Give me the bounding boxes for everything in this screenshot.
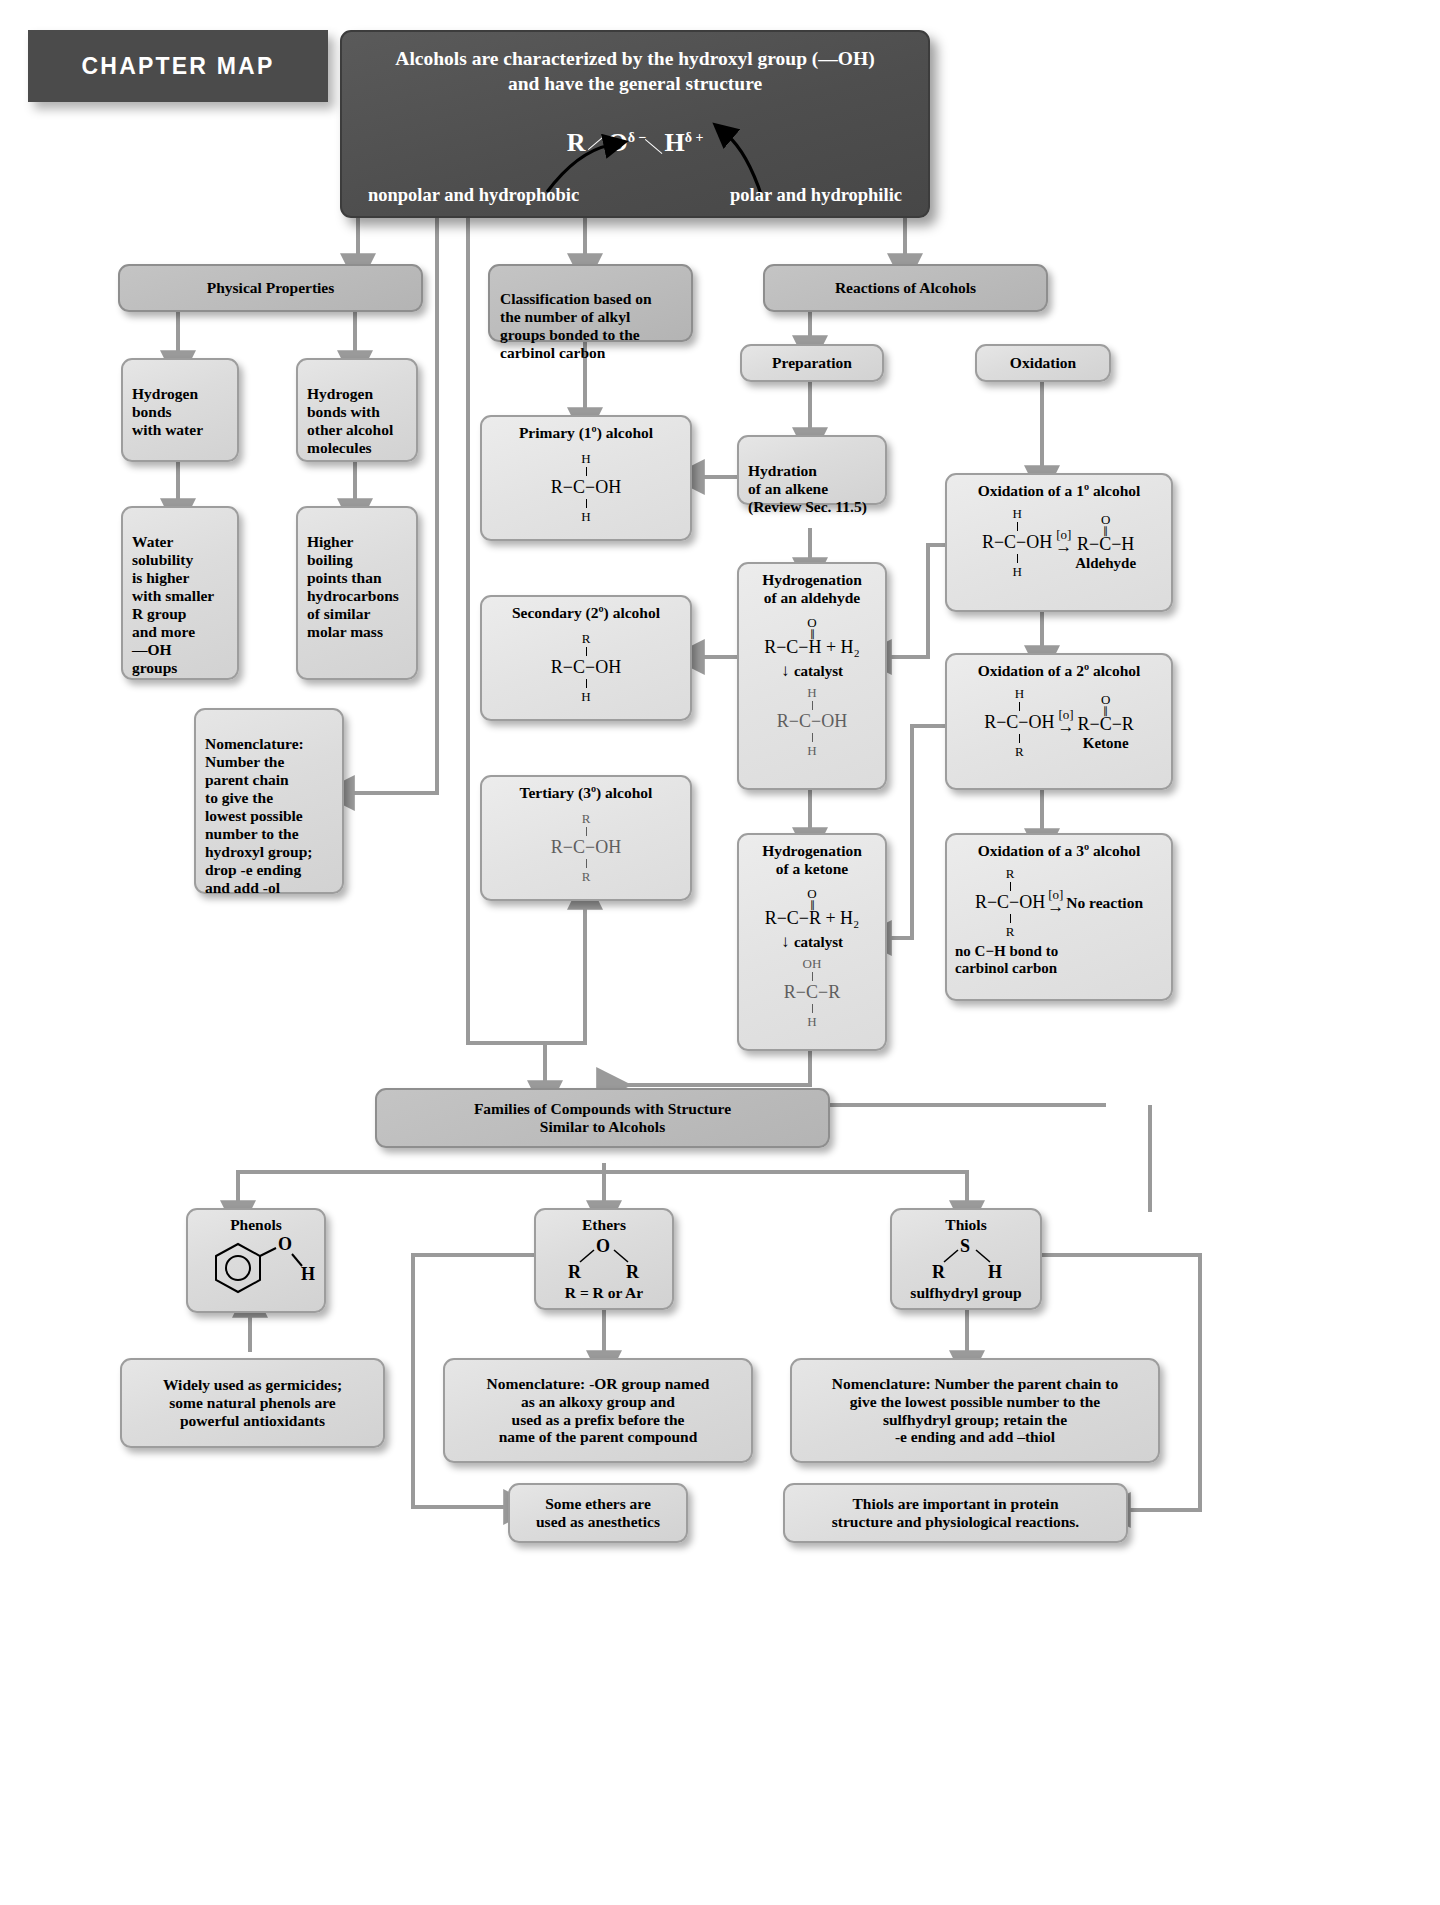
oxidation-primary-structure: H R−C−OH H [o] → O ∥ R−C−H Aldehyde — [955, 506, 1163, 579]
ox3-note: no C−H bond to carbinol carbon — [955, 943, 1163, 978]
box-families-header[interactable]: Families of Compounds with Structure Sim… — [375, 1088, 830, 1148]
ox2-product-name: Ketone — [1077, 735, 1133, 752]
hydration-alkene-label: Hydration of an alkene (Review Sec. 11.5… — [748, 462, 867, 515]
aldehyde-product-bottom: H — [745, 743, 879, 758]
oxidation-primary-title: Oxidation of a 1º alcohol — [955, 482, 1163, 500]
phenols-uses-label: Widely used as germicides; some natural … — [163, 1376, 342, 1430]
box-hydrogenation-aldehyde[interactable]: Hydrogenation of an aldehyde O ∥ R−C−H +… — [737, 562, 887, 790]
phenol-structure: O H — [194, 1234, 322, 1304]
tertiary-right-group: OH — [595, 837, 621, 857]
oxidation-tertiary-title: Oxidation of a 3º alcohol — [955, 842, 1163, 860]
box-oxidation-secondary[interactable]: Oxidation of a 2º alcohol H R−C−OH R [o]… — [945, 653, 1173, 790]
box-water-solubility[interactable]: Water solubility is higher with smaller … — [121, 506, 239, 680]
box-boiling-points[interactable]: Higher boiling points than hydrocarbons … — [296, 506, 418, 680]
box-oxidation[interactable]: Oxidation — [975, 344, 1111, 382]
secondary-alcohol-structure: R R−C−OH H — [491, 631, 681, 704]
svg-text:R: R — [568, 1262, 582, 1282]
chapter-map-canvas: CHAPTER MAP Alcohols are characterized b… — [0, 0, 1440, 1905]
families-header-label: Families of Compounds with Structure Sim… — [474, 1100, 731, 1136]
svg-text:S: S — [960, 1236, 970, 1256]
tertiary-top-atom: R — [491, 811, 681, 826]
ox2-reactant: R−C−OH — [984, 712, 1054, 733]
svg-text:H: H — [988, 1262, 1002, 1282]
branch-classification[interactable]: Classification based on the number of al… — [488, 264, 693, 342]
ether-structure: O R R — [544, 1236, 664, 1284]
ox1-sub-bottom: H — [982, 564, 1052, 579]
box-preparation[interactable]: Preparation — [740, 344, 884, 382]
box-thiols[interactable]: Thiols S R H sulfhydryl group — [890, 1208, 1042, 1310]
water-solubility-label: Water solubility is higher with smaller … — [132, 533, 214, 676]
ox1-sub-top: H — [982, 506, 1052, 521]
hydrogenation-aldehyde-title: Hydrogenation of an aldehyde — [745, 571, 879, 607]
branch-physical-properties[interactable]: Physical Properties — [118, 264, 423, 312]
secondary-right-group: OH — [595, 657, 621, 677]
thiols-note: sulfhydryl group — [898, 1284, 1034, 1302]
ketone-product: R−C−R — [745, 982, 879, 1003]
thiols-protein-label: Thiols are important in protein structur… — [832, 1495, 1079, 1531]
ethers-anesthetics-label: Some ethers are used as anesthetics — [536, 1495, 660, 1531]
primary-bottom-atom: H — [491, 509, 681, 524]
oxidation-label: Oxidation — [1010, 354, 1076, 372]
ketone-catalyst: catalyst — [794, 934, 843, 950]
tertiary-center-atom: C — [573, 837, 585, 857]
chapter-map-banner: CHAPTER MAP — [28, 30, 328, 102]
box-phenols-uses[interactable]: Widely used as germicides; some natural … — [120, 1358, 385, 1448]
ethers-nomenclature-label: Nomenclature: -OR group named as an alko… — [487, 1375, 710, 1447]
box-ethers-nomenclature[interactable]: Nomenclature: -OR group named as an alko… — [443, 1358, 753, 1463]
thiols-title: Thiols — [898, 1216, 1034, 1234]
box-hydrogen-bonds-water[interactable]: Hydrogen bonds with water — [121, 358, 239, 462]
ox3-sub-top: R — [975, 866, 1045, 881]
box-primary-alcohol[interactable]: Primary (1º) alcohol H R−C−OH H — [480, 415, 692, 541]
svg-text:R: R — [626, 1262, 640, 1282]
box-phenols[interactable]: Phenols O H — [186, 1208, 326, 1313]
box-secondary-alcohol[interactable]: Secondary (2º) alcohol R R−C−OH H — [480, 595, 692, 721]
primary-right-group: OH — [595, 477, 621, 497]
secondary-center-atom: C — [573, 657, 585, 677]
svg-text:R: R — [932, 1262, 946, 1282]
header-box: Alcohols are characterized by the hydrox… — [340, 30, 930, 218]
header-left-note: nonpolar and hydrophobic — [368, 185, 579, 206]
branch-reactions-label: Reactions of Alcohols — [835, 279, 976, 297]
box-hydration-alkene[interactable]: Hydration of an alkene (Review Sec. 11.5… — [737, 435, 887, 505]
svg-text:H: H — [301, 1264, 315, 1284]
primary-top-atom: H — [491, 451, 681, 466]
oxidation-tertiary-structure: R R−C−OH R [o] → No reaction — [955, 866, 1163, 939]
hydrogenation-ketone-structure: O ∥ R−C−R + H₂ ↓ catalyst OH R−C−R H — [745, 886, 879, 1029]
boiling-points-label: Higher boiling points than hydrocarbons … — [307, 533, 399, 640]
box-thiols-nomenclature[interactable]: Nomenclature: Number the parent chain to… — [790, 1358, 1160, 1463]
box-hydrogenation-ketone[interactable]: Hydrogenation of a ketone O ∥ R−C−R + H₂… — [737, 833, 887, 1051]
tertiary-left-atom: R — [551, 837, 563, 857]
box-hydrogen-bonds-alcohol[interactable]: Hydrogen bonds with other alcohol molecu… — [296, 358, 418, 462]
oxidation-secondary-title: Oxidation of a 2º alcohol — [955, 662, 1163, 680]
box-oxidation-primary[interactable]: Oxidation of a 1º alcohol H R−C−OH H [o]… — [945, 473, 1173, 612]
primary-alcohol-title: Primary (1º) alcohol — [491, 424, 681, 442]
aldehyde-reactant: R−C−H + H₂ — [745, 637, 879, 658]
box-oxidation-tertiary[interactable]: Oxidation of a 3º alcohol R R−C−OH R [o]… — [945, 833, 1173, 1001]
branch-reactions[interactable]: Reactions of Alcohols — [763, 264, 1048, 312]
tertiary-alcohol-title: Tertiary (3º) alcohol — [491, 784, 681, 802]
secondary-top-atom: R — [491, 631, 681, 646]
aldehyde-product-top: H — [745, 685, 879, 700]
box-ethers[interactable]: Ethers O R R R = R or Ar — [534, 1208, 674, 1310]
aldehyde-catalyst: catalyst — [794, 663, 843, 679]
svg-text:O: O — [278, 1234, 292, 1254]
hydrogen-bonds-water-label: Hydrogen bonds with water — [132, 385, 203, 438]
tertiary-alcohol-structure: R R−C−OH R — [491, 811, 681, 884]
thiol-structure: S R H — [906, 1236, 1026, 1284]
thiols-nomenclature-label: Nomenclature: Number the parent chain to… — [832, 1375, 1118, 1447]
box-ethers-anesthetics[interactable]: Some ethers are used as anesthetics — [508, 1483, 688, 1543]
primary-alcohol-structure: H R−C−OH H — [491, 451, 681, 524]
hydrogenation-ketone-title: Hydrogenation of a ketone — [745, 842, 879, 878]
ox2-sub-bottom: R — [984, 744, 1054, 759]
ox2-product: R−C−R — [1077, 714, 1133, 735]
box-alcohol-nomenclature[interactable]: Nomenclature: Number the parent chain to… — [194, 708, 344, 894]
box-tertiary-alcohol[interactable]: Tertiary (3º) alcohol R R−C−OH R — [480, 775, 692, 901]
branch-physical-properties-label: Physical Properties — [207, 279, 335, 297]
ketone-reactant: R−C−R + H₂ — [745, 908, 879, 929]
svg-text:O: O — [596, 1236, 610, 1256]
ox3-sub-bottom: R — [975, 924, 1045, 939]
alcohol-nomenclature-label: Nomenclature: Number the parent chain to… — [205, 735, 313, 896]
ox1-reactant: R−C−OH — [982, 532, 1052, 553]
ox1-product-name: Aldehyde — [1075, 555, 1136, 572]
box-thiols-protein[interactable]: Thiols are important in protein structur… — [783, 1483, 1128, 1543]
